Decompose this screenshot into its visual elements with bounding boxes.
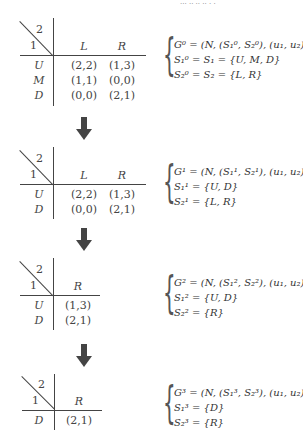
vertical-divider [53,258,54,330]
horizontal-divider [20,55,146,56]
row-header: M [29,74,49,87]
row-header: D [29,89,49,102]
equation: G¹ = (N, (S₁¹, S₂¹), (u₁, u₂)) [174,166,303,177]
row-header: U [29,59,49,72]
player-1-label: 1 [30,39,37,52]
equation: S₁² = {U, D} [174,292,238,303]
player-2-label: 2 [36,152,43,165]
column-header: R [60,280,96,293]
column-header: L [66,169,102,182]
row-header: U [29,299,49,312]
horizontal-divider [22,410,102,411]
payoff-cell: (2,1) [104,89,140,102]
vertical-divider [54,374,55,430]
equation: S₁⁰ = S₁ = {U, M, D} [174,54,280,65]
equation: S₂² = {R} [174,307,224,318]
payoff-cell: (1,3) [60,299,96,312]
equation: S₁³ = {D} [174,402,224,413]
equation: G³ = (N, (S₁³, S₂³), (u₁, u₂)) [174,387,303,398]
equation: S₁¹ = {U, D} [174,181,238,192]
payoff-cell: (1,1) [66,74,102,87]
payoff-cell: (2,1) [61,414,97,427]
cut-off-header-text: ··· ·· ·· ·· · · [180,0,216,8]
player-1-label: 1 [30,279,37,292]
payoff-cell: (2,1) [60,314,96,327]
vertical-divider [53,18,54,106]
equation: S₂³ = {R} [174,417,224,428]
player-2-label: 2 [36,23,43,36]
player-1-label: 1 [32,394,39,407]
player-2-label: 2 [38,378,45,391]
column-header: L [66,40,102,53]
row-header: D [29,414,49,427]
horizontal-divider [20,295,100,296]
payoff-cell: (2,2) [66,59,102,72]
column-header: R [61,395,97,408]
row-header: D [29,314,49,327]
equation: S₂¹ = {L, R} [174,196,237,207]
equation: S₂⁰ = S₂ = {L, R} [174,69,262,80]
payoff-cell: (1,3) [104,188,140,201]
row-header: D [29,203,49,216]
column-header: R [104,40,140,53]
payoff-cell: (0,0) [104,74,140,87]
down-arrow-icon [73,117,95,141]
payoff-cell: (0,0) [66,89,102,102]
row-header: U [29,188,49,201]
payoff-cell: (0,0) [66,203,102,216]
vertical-divider [53,147,54,219]
payoff-cell: (1,3) [104,59,140,72]
player-1-label: 1 [30,168,37,181]
down-arrow-icon [73,228,95,252]
equation: G² = (N, (S₁², S₂²), (u₁, u₂)) [174,277,303,288]
payoff-cell: (2,2) [66,188,102,201]
column-header: R [104,169,140,182]
equation: G⁰ = (N, (S₁⁰, S₂⁰), (u₁, u₂)) [174,39,303,50]
payoff-cell: (2,1) [104,203,140,216]
horizontal-divider [20,184,146,185]
player-2-label: 2 [36,263,43,276]
down-arrow-icon [73,344,95,368]
